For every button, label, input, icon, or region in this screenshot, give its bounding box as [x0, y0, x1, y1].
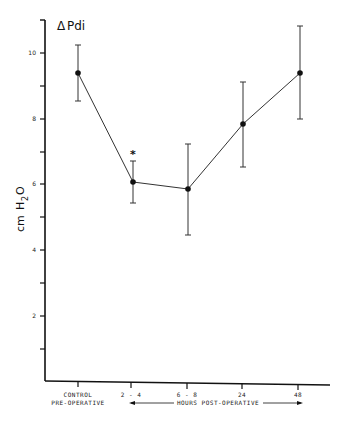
- x-label-preoperative: PRE-OPERATIVE: [51, 399, 104, 406]
- x-label-6-8: 6 - 8: [177, 391, 198, 398]
- x-label-48: 48: [294, 391, 302, 398]
- point-24: [240, 121, 246, 127]
- data-line: [78, 73, 300, 189]
- y-tick-label-4: 4: [32, 246, 36, 253]
- svg-text:H: H: [14, 202, 27, 210]
- chart-title-delta: Δ: [57, 19, 66, 33]
- error-bars: [75, 26, 303, 235]
- x-axis-label: HOURS POST-OPERATIVE: [177, 399, 259, 406]
- y-tick-label-8: 8: [32, 115, 36, 122]
- point-6-8: [185, 186, 191, 192]
- point-48: [297, 70, 303, 76]
- svg-text:cm: cm: [14, 215, 27, 232]
- data-points: [75, 70, 303, 192]
- point-2-4: [130, 179, 136, 185]
- x-label-24: 24: [238, 391, 246, 398]
- svg-text:O: O: [14, 186, 27, 195]
- y-tick-label-6: 6: [32, 180, 36, 187]
- point-control: [75, 70, 81, 76]
- chart-title: Pdi: [67, 19, 85, 33]
- significance-star: *: [130, 148, 136, 161]
- chart: 10 8 6 4 2 cm H 2 O Δ Pdi CONTROL PRE-OP…: [0, 0, 343, 422]
- x-label-control: CONTROL: [64, 391, 93, 398]
- x-label-2-4: 2 - 4: [121, 391, 142, 398]
- svg-text:2: 2: [21, 196, 30, 201]
- y-axis-label: cm H 2 O: [14, 186, 30, 232]
- y-tick-label-10: 10: [28, 49, 36, 56]
- y-tick-label-2: 2: [32, 312, 36, 319]
